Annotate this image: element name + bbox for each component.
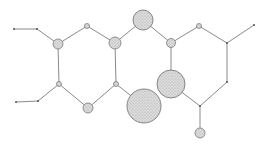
atom-node <box>53 39 63 49</box>
terminal-point <box>15 101 17 103</box>
atom-node <box>157 70 185 98</box>
bond-line <box>200 82 227 106</box>
atom-node <box>57 82 62 87</box>
bond-line <box>227 25 254 43</box>
bond-line <box>199 26 227 43</box>
atom-node <box>85 24 90 29</box>
terminal-point <box>13 28 15 30</box>
molecule-diagram <box>0 0 268 146</box>
atom-node <box>195 128 205 138</box>
atom-node <box>114 82 119 87</box>
bond-line <box>171 26 199 43</box>
terminal-point <box>37 100 39 102</box>
bond-line <box>16 101 38 102</box>
atom-node <box>167 39 176 48</box>
terminal-point <box>226 42 228 44</box>
atom-node <box>109 37 121 49</box>
atom-node <box>197 24 202 29</box>
terminal-point <box>253 24 255 26</box>
terminal-point <box>199 105 201 107</box>
bond-line <box>88 84 116 108</box>
bond-line <box>38 84 59 101</box>
terminal-point <box>36 28 38 30</box>
atoms-layer <box>53 10 205 138</box>
atom-node <box>83 103 93 113</box>
atom-node <box>127 89 161 123</box>
bond-line <box>58 44 59 84</box>
atom-node <box>133 10 153 30</box>
bond-line <box>59 84 88 108</box>
terminal-point <box>226 81 228 83</box>
